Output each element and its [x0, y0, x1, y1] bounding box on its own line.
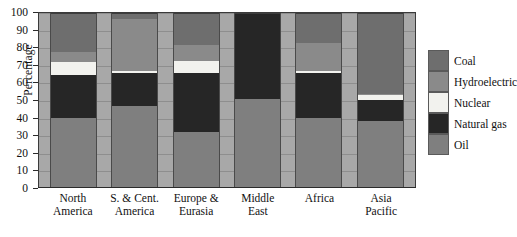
legend: CoalHydroelectricNuclearNatural gasOil — [428, 50, 514, 155]
x-tick-label: Europe &Eurasia — [167, 192, 225, 218]
legend-label: Nuclear — [454, 97, 490, 109]
bar-s-cent-america[interactable] — [111, 13, 158, 187]
segment-gas — [51, 75, 96, 118]
segment-coal — [51, 13, 96, 52]
y-tick-label: 40 — [17, 112, 29, 124]
legend-item-gas[interactable]: Natural gas — [428, 113, 514, 134]
bar-europe-eurasia[interactable] — [173, 13, 220, 187]
legend-item-nuclear[interactable]: Nuclear — [428, 92, 514, 113]
bar-north-america[interactable] — [50, 13, 97, 187]
legend-swatch-hydro — [428, 71, 449, 92]
bar-asia-pacific[interactable] — [357, 13, 404, 187]
segment-coal — [296, 13, 341, 43]
segment-hydro — [112, 19, 157, 71]
y-tick-label: 0 — [22, 182, 28, 194]
y-axis-tick-labels: 0102030405060708090100 — [0, 0, 33, 200]
x-axis-line — [38, 187, 416, 188]
bar-africa[interactable] — [295, 13, 342, 187]
legend-label: Natural gas — [454, 118, 507, 130]
y-tick-label: 70 — [17, 59, 29, 71]
x-tick-label: Africa — [290, 192, 348, 218]
segment-oil — [174, 132, 219, 187]
legend-swatch-nuclear — [428, 92, 449, 113]
bar-middle-east[interactable] — [234, 13, 281, 187]
x-axis-tick-labels: NorthAmericaS. & Cent.AmericaEurope &Eur… — [38, 192, 416, 218]
segment-gas — [296, 73, 341, 118]
legend-label: Oil — [454, 139, 469, 151]
segment-oil — [112, 106, 157, 187]
legend-swatch-oil — [428, 134, 449, 155]
segment-gas — [235, 13, 280, 99]
segment-hydro — [51, 52, 96, 62]
y-tick-label: 60 — [17, 76, 29, 88]
legend-item-oil[interactable]: Oil — [428, 134, 514, 155]
x-tick-label: S. & Cent.America — [105, 192, 163, 218]
segment-nuclear — [51, 62, 96, 74]
segment-gas — [112, 73, 157, 106]
legend-swatch-gas — [428, 113, 449, 134]
segment-hydro — [296, 43, 341, 71]
y-tick-mark — [33, 188, 38, 189]
segment-oil — [296, 118, 341, 187]
legend-item-coal[interactable]: Coal — [428, 50, 514, 71]
plot-area — [38, 12, 416, 188]
segment-gas — [174, 73, 219, 132]
x-tick-label: MiddleEast — [229, 192, 287, 218]
y-tick-label: 20 — [17, 147, 29, 159]
y-tick-label: 30 — [17, 129, 29, 141]
y-tick-label: 10 — [17, 164, 29, 176]
legend-label: Coal — [454, 55, 476, 67]
segment-coal — [358, 13, 403, 94]
segment-nuclear — [174, 61, 219, 73]
segment-oil — [235, 99, 280, 187]
segment-oil — [358, 121, 403, 187]
bar-group — [39, 13, 415, 187]
segment-hydro — [174, 45, 219, 61]
legend-label: Hydroelectric — [454, 76, 517, 88]
x-tick-label: NorthAmerica — [44, 192, 102, 218]
x-tick-label: AsiaPacific — [352, 192, 410, 218]
segment-gas — [358, 100, 403, 121]
y-tick-label: 50 — [17, 94, 29, 106]
segment-oil — [51, 118, 96, 187]
legend-swatch-coal — [428, 50, 449, 71]
segment-coal — [174, 13, 219, 45]
y-tick-label: 100 — [11, 6, 28, 18]
legend-item-hydro[interactable]: Hydroelectric — [428, 71, 514, 92]
y-tick-label: 90 — [17, 24, 29, 36]
y-tick-label: 80 — [17, 41, 29, 53]
